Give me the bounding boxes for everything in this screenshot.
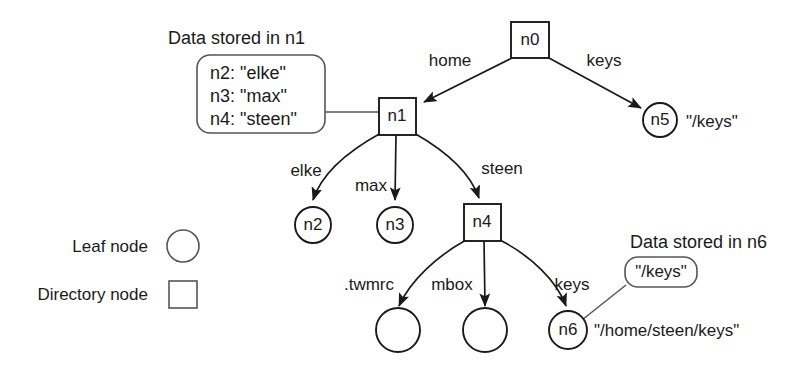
node-n2-label: n2 — [304, 215, 323, 234]
diagram-canvas: Data stored in n1 n2: "elke" n3: "max" n… — [0, 0, 812, 370]
edge-n1-n4 — [414, 133, 479, 198]
edge-label-elke: elke — [290, 161, 321, 180]
edge-label-max: max — [355, 176, 388, 195]
annotation-title-n6: Data stored in n6 — [630, 232, 767, 252]
data-box-n1-line-0: n2: "elke" — [210, 63, 286, 83]
node-n1-label: n1 — [388, 106, 407, 125]
node-n3-label: n3 — [386, 215, 405, 234]
edge-n1-n3 — [395, 135, 396, 200]
edge-label-mbox: mbox — [431, 275, 473, 294]
edge-label-keys-n4: keys — [555, 275, 590, 294]
node-n6-label: n6 — [559, 320, 578, 339]
legend-label-leaf-node: Leaf node — [72, 237, 148, 256]
data-box-n1-line-1: n3: "max" — [210, 86, 287, 106]
edge-label-keys-root: keys — [587, 51, 622, 70]
edge-n4-leaf-twmrc — [399, 240, 466, 306]
edge-label-home: home — [429, 51, 472, 70]
legend-label-directory-node: Directory node — [37, 285, 148, 304]
annotation-title-n1: Data stored in n1 — [168, 28, 305, 48]
node-leaf-twmrc[interactable] — [376, 308, 420, 352]
node-n5-label: n5 — [651, 110, 670, 129]
edge-label-twmrc: .twmrc — [344, 275, 395, 294]
node-leaf-mbox[interactable] — [463, 308, 507, 352]
data-box-n1-line-2: n4: "steen" — [210, 109, 297, 129]
edge-label-steen: steen — [481, 159, 523, 178]
edge-n4-n6 — [500, 240, 566, 306]
node-n0-label: n0 — [521, 30, 540, 49]
legend-leaf-node-icon — [167, 230, 199, 262]
node-n5-path-label: "/keys" — [686, 112, 738, 131]
edge-n4-leaf-mbox — [484, 240, 485, 306]
naming-graph-diagram: Data stored in n1 n2: "elke" n3: "max" n… — [0, 0, 812, 370]
node-n4-label: n4 — [473, 212, 492, 231]
legend-directory-node-icon — [169, 281, 197, 308]
node-n6-path-label: "/home/steen/keys" — [594, 321, 739, 340]
data-box-n6-value: "/keys" — [635, 262, 687, 281]
